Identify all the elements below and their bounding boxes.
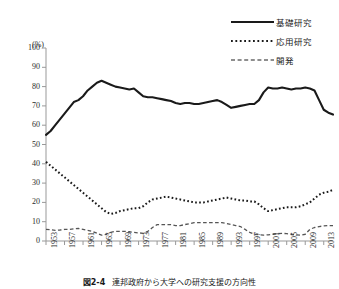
y-axis-tick-label: 40: [14, 159, 40, 168]
legend-label-kaihatsu: 開発: [276, 54, 294, 66]
legend-label-oyo: 応用研究: [276, 35, 312, 47]
series-line: [46, 162, 333, 214]
y-axis-ticks: [42, 48, 46, 241]
legend-label-kiso: 基礎研究: [276, 16, 312, 28]
legend-swatch-dotted-icon: [231, 36, 274, 46]
x-axis-tick-label: 1985: [198, 232, 207, 248]
legend-swatch-solid-icon: [231, 17, 274, 27]
series-line: [46, 81, 333, 135]
x-axis-tick-label: 1981: [179, 232, 188, 248]
legend-item-oyo: 応用研究: [231, 31, 337, 50]
figure-caption-title: 連邦政府から大学への研究支援の方向性: [112, 278, 256, 287]
figure-caption-number: 図2-4: [83, 278, 105, 287]
x-axis-tick-label: 1993: [235, 232, 244, 248]
y-axis-tick-label: 50: [14, 140, 40, 149]
x-axis-tick-label: 1977: [161, 232, 170, 248]
x-axis-tick-label: 1969: [124, 232, 133, 248]
axis-lines: [46, 48, 333, 241]
y-axis-tick-label: 60: [14, 120, 40, 129]
y-axis-tick-label: 0: [14, 236, 40, 245]
y-axis-tick-label: 10: [14, 217, 40, 226]
legend-swatch-dashed-icon: [231, 55, 274, 65]
x-axis-tick-label: 1965: [105, 232, 114, 248]
x-axis-tick-label: 2001: [272, 232, 281, 248]
y-axis-tick-label: 20: [14, 197, 40, 206]
y-axis-tick-label: 30: [14, 178, 40, 187]
x-axis-tick-label: 2009: [309, 232, 318, 248]
series-lines: [46, 81, 333, 235]
figure-container: (%) 0102030405060708090100 1953195719611…: [0, 0, 339, 289]
x-axis-tick-label: 1953: [50, 232, 59, 248]
x-axis-tick-label: 1997: [253, 232, 262, 248]
x-axis-tick-label: 1973: [142, 232, 151, 248]
y-axis-tick-label: 80: [14, 82, 40, 91]
figure-caption: 図2-4連邦政府から大学への研究支援の方向性: [0, 276, 339, 287]
x-axis-tick-label: 1957: [68, 232, 77, 248]
y-axis-tick-label: 70: [14, 101, 40, 110]
y-axis-tick-label: 90: [14, 62, 40, 71]
x-axis-tick-label: 1989: [216, 232, 225, 248]
x-axis-tick-label: 2005: [290, 232, 299, 248]
legend-item-kaihatsu: 開発: [231, 50, 337, 69]
chart-legend: 基礎研究 応用研究 開発: [231, 12, 337, 69]
x-axis-tick-label: 2013: [327, 232, 336, 248]
y-axis-tick-label: 100: [14, 43, 40, 52]
legend-item-kiso: 基礎研究: [231, 12, 337, 31]
x-axis-tick-label: 1961: [87, 232, 96, 248]
